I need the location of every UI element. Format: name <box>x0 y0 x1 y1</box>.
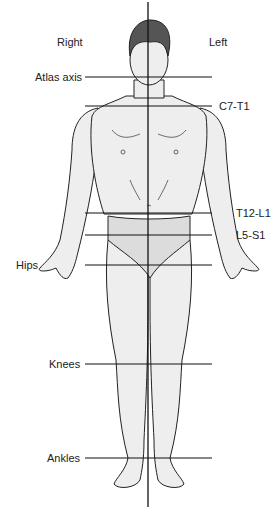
label-c7-t1: C7-T1 <box>219 100 250 112</box>
label-l5-s1: L5-S1 <box>236 229 265 241</box>
label-hips: Hips <box>16 259 38 271</box>
label-atlas-axis: Atlas axis <box>35 71 82 83</box>
left-arm <box>200 108 259 279</box>
label-left-side: Left <box>209 36 227 48</box>
label-t12-l1: T12-L1 <box>236 207 271 219</box>
label-knees: Knees <box>49 358 80 370</box>
label-right-side: Right <box>57 36 83 48</box>
right-arm <box>39 108 98 279</box>
label-ankles: Ankles <box>47 452 80 464</box>
torso <box>91 96 207 214</box>
